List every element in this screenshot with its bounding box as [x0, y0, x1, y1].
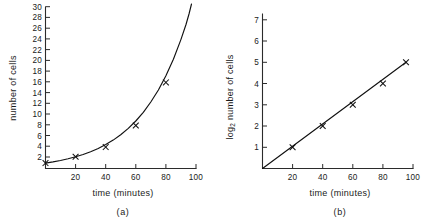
y-tick-label: 22	[32, 46, 42, 55]
figure-root: 2 4 6 8 10 12 14 16 18 20 22 24 26 28 30	[0, 0, 432, 221]
panel-caption-b: (b)	[334, 207, 347, 217]
x-tick-label: 40	[101, 173, 111, 182]
panel-caption-a: (a)	[117, 207, 130, 217]
x-ticks-a	[76, 164, 196, 169]
data-point-marker	[350, 102, 356, 108]
axis-lines-a	[46, 7, 197, 169]
chart-panel-b: 1 2 3 4 5 6 7 20 40 60 80	[216, 0, 432, 221]
y-tick-label: 12	[32, 99, 42, 108]
y-tick-label: 16	[32, 78, 42, 87]
data-point-marker	[163, 80, 169, 86]
x-tick-label: 20	[71, 173, 81, 182]
y-tick-label: 24	[32, 35, 42, 44]
x-tick-label: 60	[131, 173, 141, 182]
x-tick-label: 60	[348, 173, 358, 182]
x-tick-label: 40	[318, 173, 328, 182]
y-ticks-a	[46, 7, 51, 157]
data-curve-b	[263, 62, 407, 168]
y-axis-title-b: log2 number of cells	[225, 54, 236, 139]
chart-panel-a: 2 4 6 8 10 12 14 16 18 20 22 24 26 28 30	[0, 0, 216, 221]
x-axis-title-b: time (minutes)	[309, 188, 370, 198]
y-tick-label: 20	[32, 56, 42, 65]
y-tick-label: 18	[32, 67, 42, 76]
data-curve-a	[46, 4, 192, 163]
y-tick-label: 7	[254, 16, 259, 25]
data-point-marker	[380, 81, 386, 87]
y-tick-label: 30	[32, 3, 42, 12]
y-tick-label: 8	[37, 121, 42, 130]
y-axis-title-b-suffix: number of cells	[225, 54, 235, 123]
chart-svg-a: 2 4 6 8 10 12 14 16 18 20 22 24 26 28 30	[0, 0, 216, 221]
x-tick-label: 100	[406, 173, 421, 182]
x-tick-label: 20	[288, 173, 298, 182]
y-tick-label: 4	[37, 142, 42, 151]
y-tick-labels-a: 2 4 6 8 10 12 14 16 18 20 22 24 26 28 30	[32, 3, 42, 162]
x-tick-labels-b: 20 40 60 80 100	[288, 173, 421, 182]
x-axis-title-a: time (minutes)	[92, 188, 153, 198]
y-tick-label: 1	[254, 143, 259, 152]
x-tick-labels-a: 20 40 60 80 100	[71, 173, 204, 182]
y-axis-title-a: number of cells	[8, 55, 18, 121]
x-tick-label: 80	[378, 173, 388, 182]
y-tick-label: 28	[32, 13, 42, 22]
x-ticks-b	[293, 164, 413, 169]
x-tick-label: 100	[189, 173, 204, 182]
data-point-marker	[133, 123, 139, 129]
data-point-marker	[403, 59, 409, 65]
y-tick-label: 3	[254, 101, 259, 110]
y-tick-label: 6	[37, 132, 42, 141]
y-tick-label: 2	[37, 153, 42, 162]
y-tick-label: 2	[254, 122, 259, 131]
y-tick-label: 26	[32, 24, 42, 33]
y-tick-label: 10	[32, 110, 42, 119]
y-ticks-b	[263, 20, 268, 148]
axis-lines-b	[263, 14, 414, 169]
y-tick-label: 6	[254, 37, 259, 46]
x-tick-label: 80	[161, 173, 171, 182]
y-tick-label: 5	[254, 58, 259, 67]
y-tick-labels-b: 1 2 3 4 5 6 7	[254, 16, 259, 153]
y-tick-label: 4	[254, 80, 259, 89]
y-tick-label: 14	[32, 89, 42, 98]
y-axis-title-b-prefix: log	[225, 127, 235, 140]
data-markers-a	[43, 80, 169, 167]
chart-svg-b: 1 2 3 4 5 6 7 20 40 60 80	[216, 0, 432, 221]
